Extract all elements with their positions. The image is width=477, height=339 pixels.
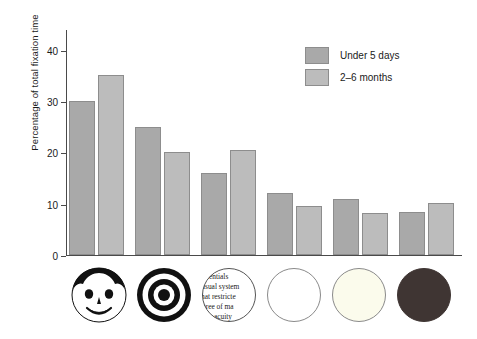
y-tick-mark xyxy=(61,102,66,103)
y-axis-title: Percentage of total fixation time xyxy=(29,0,40,183)
stimulus-icon-row: entials isual system hat restricte gree … xyxy=(66,266,462,328)
legend-swatch-2-6-months xyxy=(305,69,329,86)
bar-bullseye-under-5-days xyxy=(135,127,161,255)
bar-yellow-under-5-days xyxy=(333,199,359,256)
face-stimulus-icon xyxy=(70,266,128,324)
bar-newsprint-under-5-days xyxy=(201,173,227,255)
newsprint-line-3: hat restricte xyxy=(201,292,236,301)
newsprint-line-2: isual system xyxy=(203,282,240,291)
newsprint-line-5: acuity xyxy=(214,312,232,321)
bar-bullseye-2-6-months xyxy=(164,152,190,255)
y-tick-mark xyxy=(61,153,66,154)
white-circle-stimulus-icon xyxy=(265,266,323,324)
newsprint-stimulus-icon: entials isual system hat restricte gree … xyxy=(200,266,258,324)
bar-yellow-2-6-months xyxy=(362,213,388,255)
red-circle-stimulus-icon xyxy=(395,266,453,324)
bar-face-2-6-months xyxy=(98,75,124,255)
y-tick-mark xyxy=(61,256,66,257)
y-tick-mark xyxy=(61,51,66,52)
bar-group-face xyxy=(67,30,133,255)
bar-group-newsprint xyxy=(199,30,265,255)
y-tick-mark xyxy=(61,205,66,206)
y-tick-label: 40 xyxy=(47,45,58,56)
legend-item-under-5-days: Under 5 days xyxy=(305,44,399,66)
bar-white-under-5-days xyxy=(267,193,293,255)
plot-area: 010203040 xyxy=(66,30,462,256)
figure: Percentage of total fixation time 010203… xyxy=(0,0,477,339)
legend-label-under-5-days: Under 5 days xyxy=(340,50,399,61)
legend-label-2-6-months: 2–6 months xyxy=(340,72,392,83)
bar-red-2-6-months xyxy=(428,203,454,255)
bar-group-bullseye xyxy=(133,30,199,255)
x-axis-line xyxy=(66,255,462,256)
bullseye-stimulus-icon xyxy=(135,266,193,324)
y-tick-label: 30 xyxy=(47,96,58,107)
bar-white-2-6-months xyxy=(296,206,322,255)
legend-swatch-under-5-days xyxy=(305,47,329,64)
bar-series-container xyxy=(67,30,462,255)
bar-group-red xyxy=(397,30,463,255)
bar-newsprint-2-6-months xyxy=(230,150,256,255)
legend-item-2-6-months: 2–6 months xyxy=(305,66,399,88)
y-tick-label: 20 xyxy=(47,148,58,159)
bar-face-under-5-days xyxy=(69,101,95,255)
legend: Under 5 days 2–6 months xyxy=(305,44,399,88)
y-tick-label: 0 xyxy=(52,251,58,262)
bar-red-under-5-days xyxy=(399,212,425,255)
newsprint-line-1: entials xyxy=(209,272,228,281)
y-tick-label: 10 xyxy=(47,199,58,210)
yellow-circle-stimulus-icon xyxy=(330,266,388,324)
